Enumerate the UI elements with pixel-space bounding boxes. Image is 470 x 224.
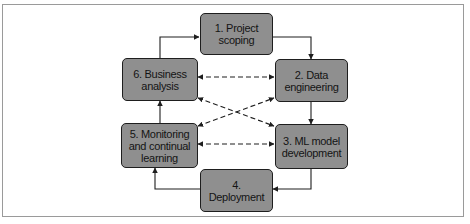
- node-label-line: 6. Business: [133, 68, 187, 80]
- node-label-line: 1. Project: [215, 22, 258, 34]
- node-label-line: engineering: [284, 81, 338, 93]
- node-label-line: scoping: [215, 34, 258, 46]
- node-label-line: learning: [129, 152, 191, 164]
- node-ml-model-development: 3. ML model development: [275, 124, 348, 169]
- node-monitoring-continual-learning: 5. Monitoring and continual learning: [121, 123, 198, 168]
- node-label-line: 4. Deployment: [203, 179, 270, 203]
- node-deployment: 4. Deployment: [200, 169, 273, 212]
- node-label-line: 5. Monitoring: [129, 128, 191, 140]
- node-label-line: development: [282, 147, 342, 159]
- node-label-line: analysis: [133, 80, 187, 92]
- node-project-scoping: 1. Project scoping: [200, 13, 273, 55]
- node-label-line: and continual: [129, 140, 191, 152]
- node-label-line: 3. ML model: [282, 135, 342, 147]
- node-business-analysis: 6. Business analysis: [122, 58, 198, 101]
- node-label-line: 2. Data: [284, 69, 338, 81]
- node-data-engineering: 2. Data engineering: [275, 59, 348, 102]
